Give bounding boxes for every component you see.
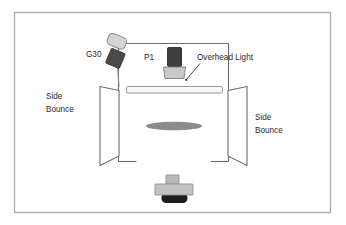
p1-light-head bbox=[168, 48, 182, 67]
side-bounce-right-label-line1: Side bbox=[255, 113, 272, 122]
camera-body bbox=[155, 184, 193, 195]
side-bounce-left-panel bbox=[100, 87, 119, 166]
lighting-setup-diagram: G30 P1 Overhead Light Side Bounce Side B… bbox=[0, 0, 346, 225]
side-bounce-left-label-line1: Side bbox=[46, 92, 63, 101]
overhead-light-bar bbox=[127, 87, 223, 94]
side-bounce-right-label-line2: Bounce bbox=[255, 126, 283, 135]
subject-ellipse bbox=[146, 122, 202, 131]
diagram-canvas: G30 P1 Overhead Light Side Bounce Side B… bbox=[0, 0, 346, 225]
camera-viewfinder bbox=[166, 175, 179, 184]
g30-label: G30 bbox=[86, 50, 102, 59]
side-bounce-right-panel bbox=[228, 87, 247, 166]
p1-light-base bbox=[164, 67, 186, 79]
p1-label: P1 bbox=[144, 53, 154, 62]
side-bounce-left-label-line2: Bounce bbox=[46, 105, 74, 114]
overhead-light-label: Overhead Light bbox=[197, 53, 254, 62]
